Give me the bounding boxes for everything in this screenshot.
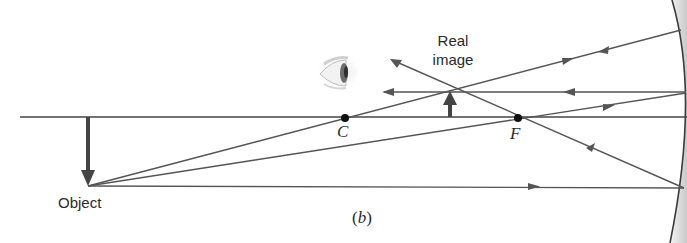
- concave-mirror: [670, 0, 687, 243]
- focal-point-label: F: [510, 124, 520, 144]
- object-arrow: [81, 117, 95, 186]
- ray-direction-arrows: [382, 46, 615, 190]
- focal-point: [514, 114, 522, 122]
- center-of-curvature-label: C: [337, 122, 348, 142]
- ray-parallel-incident: [88, 186, 684, 188]
- caption-letter: b: [358, 208, 367, 227]
- real-image-label: Real image: [428, 33, 478, 68]
- caption-close: ): [366, 208, 372, 227]
- light-rays: [88, 30, 686, 188]
- real-image-label-line1: Real: [428, 33, 478, 49]
- concave-mirror-ray-diagram: Real image C F Object (b): [0, 0, 687, 243]
- figure-caption: (b): [352, 208, 372, 228]
- observer-eye-icon: [314, 56, 358, 89]
- center-of-curvature-point: [341, 114, 349, 122]
- real-image-arrow: [443, 91, 457, 117]
- real-image-label-line2: image: [428, 52, 478, 68]
- ray-reflected-through-focus: [392, 60, 684, 188]
- object-label: Object: [58, 195, 101, 211]
